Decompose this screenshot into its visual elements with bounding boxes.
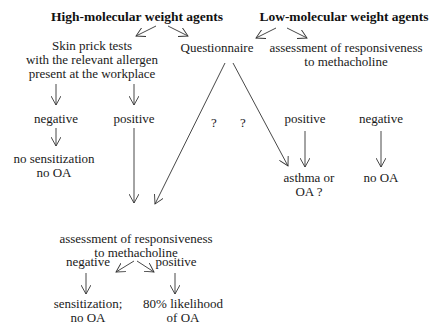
arrow-lmw-to-assessment: [287, 28, 307, 38]
arrow-assessment-to-positive: [137, 261, 154, 272]
hmw-header: High-molecular weight agents: [51, 9, 223, 24]
skin-negative: negative: [34, 111, 78, 126]
arrow-lmw-to-questionnaire: [256, 28, 276, 38]
likelihood-line2: of OA: [167, 310, 200, 325]
no-sensitization-line1: no sensitization: [13, 151, 95, 166]
lmw-no-oa: no OA: [363, 170, 399, 185]
skin-positive: positive: [113, 111, 154, 126]
flowchart: High-molecular weight agents Low-molecul…: [0, 0, 432, 334]
lmw-header: Low-molecular weight agents: [259, 9, 428, 24]
questionnaire-label: Questionnaire: [181, 40, 254, 55]
arrow-hmw-to-skin: [136, 26, 156, 36]
lmw-assessment-line1: assessment of responsiveness: [269, 40, 422, 55]
asthma-or-line1: asthma or: [284, 170, 336, 185]
arrow-hmw-to-questionnaire: [168, 26, 188, 36]
no-sensitization-line2: no OA: [36, 165, 72, 180]
skin-prick-line1: Skin prick tests: [52, 38, 132, 53]
skin-prick-line3: present at the workplace: [29, 66, 156, 81]
sensitization-line2: no OA: [70, 310, 106, 325]
hmw-positive: positive: [155, 254, 196, 269]
asthma-or-line2: OA ?: [295, 184, 322, 199]
question-mark-left: ?: [211, 115, 217, 130]
lmw-assessment-line2: to methacholine: [304, 54, 388, 69]
arrow-assessment-to-negative: [116, 261, 134, 272]
flowchart-canvas: High-molecular weight agents Low-molecul…: [0, 0, 432, 334]
skin-prick-line2: with the relevant allergen: [26, 52, 159, 67]
question-mark-right: ?: [240, 115, 246, 130]
lmw-positive: positive: [284, 111, 325, 126]
hmw-assessment-line1: assessment of responsiveness: [59, 231, 212, 246]
likelihood-line1: 80% likelihood: [143, 296, 223, 311]
lmw-negative: negative: [359, 111, 403, 126]
hmw-negative: negative: [66, 254, 110, 269]
sensitization-line1: sensitization;: [54, 296, 123, 311]
arrow-questionnaire-to-hmw-assessment: [155, 63, 225, 204]
